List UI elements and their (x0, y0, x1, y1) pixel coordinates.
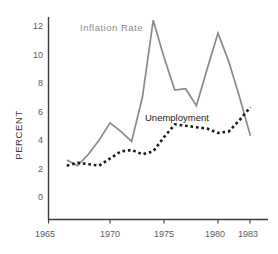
y-tick-label-12: 12 (33, 21, 43, 31)
y-tick-label-2: 2 (38, 164, 43, 174)
x-tick-label-1965: 1965 (35, 229, 55, 239)
y-tick-label-0: 0 (38, 192, 43, 202)
x-tick-label-1980: 1980 (205, 229, 225, 239)
x-tick-label-1975: 1975 (154, 229, 174, 239)
series-line-inflation-rate (67, 20, 251, 165)
y-tick-label-10: 10 (33, 50, 43, 60)
chart-container: PERCENT 0 2 4 6 8 10 12 1965 1970 1975 1… (0, 0, 278, 254)
y-tick-label-8: 8 (38, 78, 43, 88)
series-annotation-unemployment: Unemployment (145, 112, 209, 123)
x-tick-label-1983: 1983 (238, 229, 258, 239)
y-tick-label-6: 6 (38, 107, 43, 117)
y-tick-label-4: 4 (38, 135, 43, 145)
x-tick-label-1970: 1970 (100, 229, 120, 239)
y-axis-title: PERCENT (13, 110, 24, 160)
line-chart-plot: PERCENT 0 2 4 6 8 10 12 1965 1970 1975 1… (0, 0, 278, 254)
series-annotation-inflation-rate: Inflation Rate (80, 22, 143, 33)
